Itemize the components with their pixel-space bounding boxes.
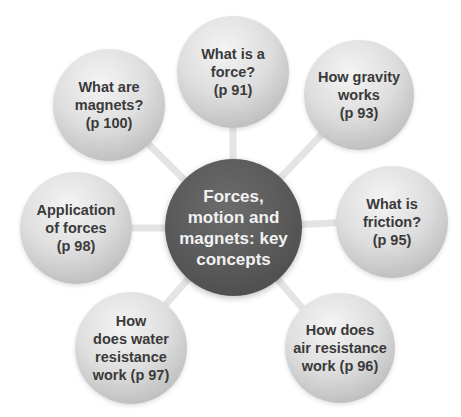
concept-map: What is a force? (p 91) How gravity work… <box>0 0 461 417</box>
node-what-are-magnets: What are magnets? (p 100) <box>53 49 165 161</box>
hub-label: Forces, motion and magnets: key concepts <box>179 186 288 270</box>
node-air-resistance: How does air resistance work (p 96) <box>285 293 395 403</box>
node-label: What are magnets? (p 100) <box>75 78 144 132</box>
node-label: How does water resistance work (p 97) <box>93 312 170 384</box>
node-label: How gravity works (p 93) <box>318 68 400 122</box>
node-application-of-forces: Application of forces (p 98) <box>20 172 132 284</box>
node-label: Application of forces (p 98) <box>37 201 116 255</box>
node-label: What is friction? (p 95) <box>363 195 421 249</box>
node-what-is-friction: What is friction? (p 95) <box>336 166 448 278</box>
hub-forces-motion-magnets: Forces, motion and magnets: key concepts <box>165 159 302 296</box>
node-label: How does air resistance work (p 96) <box>293 321 387 375</box>
node-how-gravity-works: How gravity works (p 93) <box>304 40 414 150</box>
node-label: What is a force? (p 91) <box>201 45 265 99</box>
node-water-resistance: How does water resistance work (p 97) <box>75 292 187 404</box>
node-what-is-a-force: What is a force? (p 91) <box>177 16 289 128</box>
